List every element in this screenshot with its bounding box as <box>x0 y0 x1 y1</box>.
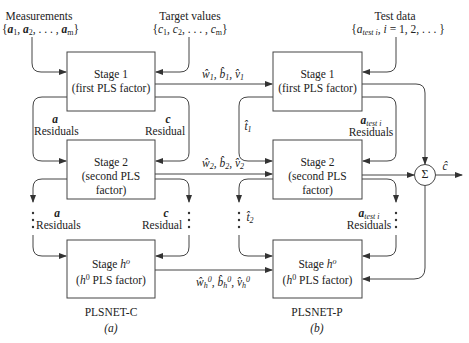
right-stage1-title: Stage 1 <box>273 67 362 81</box>
target-set: {c1, c2, . . . , cm} <box>144 23 236 39</box>
left-stage2-title: Stage 2 <box>67 155 155 169</box>
target-title: Target values <box>150 10 230 23</box>
right-residuals-label-2: Residuals <box>344 219 394 232</box>
right-stageh-title: Stage ho <box>273 255 362 271</box>
right-stage2-subtitle: (second PLS factor) <box>273 169 362 197</box>
left-residuals-label-2: Residuals <box>36 219 80 232</box>
t1-label: t̂1 <box>241 120 255 136</box>
left-residuals-label-1: Residuals <box>34 125 78 138</box>
left-residual-label-2: Residual <box>140 219 184 232</box>
right-stage2-label: Stage 2 (second PLS factor) <box>273 155 362 197</box>
left-stage1-subtitle: (first PLS factor) <box>67 81 155 95</box>
right-stageh-label: Stage ho (h0 PLS factor) <box>273 255 362 287</box>
right-residuals-label-1: Residuals <box>346 126 396 139</box>
caption-b: (b) <box>297 322 337 335</box>
sigma-symbol: Σ <box>418 168 432 181</box>
test-data-title: Test data <box>360 10 430 23</box>
left-stageh-subtitle: (h0 PLS factor) <box>67 271 155 287</box>
c-hat-output: ĉ <box>439 160 451 173</box>
t2-label: t̂2 <box>243 211 257 227</box>
caption-a: (a) <box>91 322 131 335</box>
right-stageh-subtitle: (h0 PLS factor) <box>273 271 362 287</box>
measurements-title: Measurements <box>4 10 74 23</box>
left-stage2-label: Stage 2 (second PLS factor) <box>67 155 155 197</box>
right-stage2-title: Stage 2 <box>273 155 362 169</box>
connection-label-1: ŵ1, b̂1, v̂1 <box>193 68 253 84</box>
left-stage2-subtitle: (second PLS factor) <box>67 169 155 197</box>
plsnet-c-title: PLSNET-C <box>71 306 151 319</box>
measurements-set: {a1, a2, . . . , am} <box>2 23 78 39</box>
left-stage1-label: Stage 1 (first PLS factor) <box>67 67 155 95</box>
left-residual-label-1: Residual <box>143 125 187 138</box>
connection-label-h: ŵh0, b̂h0, v̂h0 <box>186 273 260 292</box>
test-data-set: {atest i, i = 1, 2, . . . } <box>331 23 465 39</box>
right-stage1-subtitle: (first PLS factor) <box>273 81 362 95</box>
left-stageh-title: Stage ho <box>67 255 155 271</box>
left-stage1-title: Stage 1 <box>67 67 155 81</box>
right-stage1-label: Stage 1 (first PLS factor) <box>273 67 362 95</box>
connection-label-2: ŵ2, b̂2, v̂2 <box>193 157 253 173</box>
left-stageh-label: Stage ho (h0 PLS factor) <box>67 255 155 287</box>
plsnet-p-title: PLSNET-P <box>277 306 357 319</box>
